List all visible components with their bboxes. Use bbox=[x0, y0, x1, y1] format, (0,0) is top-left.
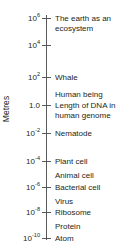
scale-item-label: Virus bbox=[55, 197, 73, 207]
tick-mantissa: 10 bbox=[28, 14, 37, 23]
y-axis-tick-mark bbox=[42, 238, 51, 239]
scale-item-label: Animal cell bbox=[55, 171, 94, 181]
y-axis-tick-label: 104 bbox=[0, 41, 40, 50]
tick-mantissa: 10 bbox=[23, 234, 32, 243]
tick-exponent: -4 bbox=[35, 155, 40, 161]
y-axis-tick-mark bbox=[42, 212, 51, 213]
tick-exponent: -8 bbox=[35, 206, 40, 212]
y-axis-tick-label: 10-10 bbox=[0, 234, 40, 243]
tick-mantissa: 10 bbox=[26, 183, 35, 192]
tick-mantissa: 10 bbox=[28, 41, 37, 50]
tick-exponent: -2 bbox=[35, 127, 40, 133]
scale-item-label: Ribosome bbox=[55, 208, 91, 218]
tick-mantissa: 10 bbox=[28, 73, 37, 82]
scale-item-label: Nematode bbox=[55, 129, 92, 139]
y-axis-tick-label: 10-4 bbox=[0, 157, 40, 166]
scale-item-label: Protein bbox=[55, 222, 80, 232]
y-axis-tick-mark bbox=[42, 18, 51, 19]
y-axis-line bbox=[46, 15, 47, 240]
tick-mantissa: 10 bbox=[26, 157, 35, 166]
y-axis-tick-mark bbox=[42, 187, 51, 188]
scale-item-label: The earth as an ecosystem bbox=[55, 14, 140, 33]
scale-item-label: Human being bbox=[55, 90, 103, 100]
tick-exponent: -6 bbox=[35, 181, 40, 187]
tick-mantissa: 10 bbox=[26, 208, 35, 217]
tick-exponent: -10 bbox=[32, 232, 40, 238]
y-axis-tick-label: 10-2 bbox=[0, 129, 40, 138]
y-axis-tick-mark bbox=[42, 133, 51, 134]
scale-item-label: Atom bbox=[55, 234, 74, 244]
tick-exponent: 2 bbox=[37, 71, 40, 77]
tick-exponent: 6 bbox=[37, 12, 40, 18]
scale-item-label: Whale bbox=[55, 73, 78, 83]
y-axis-tick-label: 1.0 bbox=[0, 101, 40, 110]
scale-item-label: Bacterial cell bbox=[55, 183, 100, 193]
y-axis-tick-mark bbox=[42, 105, 51, 106]
y-axis-tick-mark bbox=[42, 45, 51, 46]
scale-item-label: Length of DNA in human genome bbox=[55, 101, 115, 120]
tick-exponent: 4 bbox=[37, 39, 40, 45]
y-axis-tick-label: 10-8 bbox=[0, 208, 40, 217]
tick-mantissa: 10 bbox=[26, 129, 35, 138]
y-axis-tick-label: 10-6 bbox=[0, 183, 40, 192]
y-axis-tick-mark bbox=[42, 77, 51, 78]
scale-item-label: Plant cell bbox=[55, 157, 87, 167]
biological-scale-chart: Metres 1061041021.010-210-410-610-810-10… bbox=[0, 0, 140, 251]
y-axis-tick-mark bbox=[42, 161, 51, 162]
y-axis-tick-label: 102 bbox=[0, 73, 40, 82]
y-axis-tick-label: 106 bbox=[0, 14, 40, 23]
